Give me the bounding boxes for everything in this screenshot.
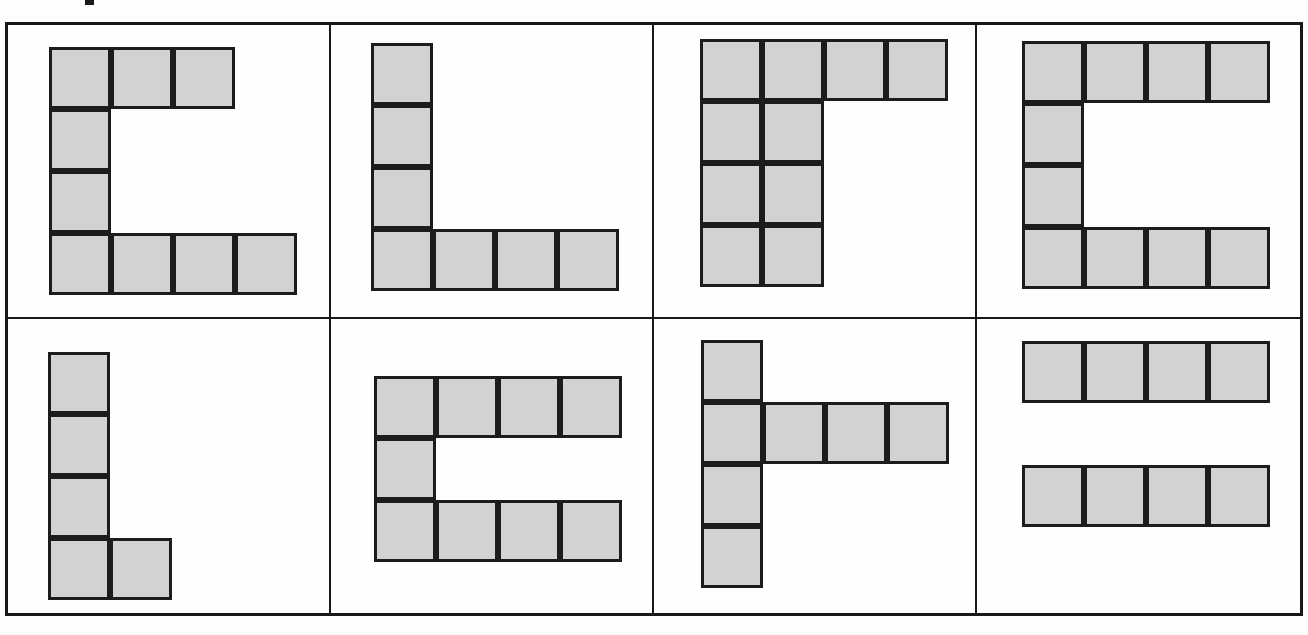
shape-square — [701, 526, 763, 588]
shape-square — [436, 376, 498, 438]
shape-square — [498, 376, 560, 438]
shape-square — [49, 109, 111, 171]
shape-square — [1022, 227, 1084, 289]
panel-8[interactable] — [977, 319, 1300, 613]
panel-3[interactable] — [654, 25, 977, 319]
shape-square — [371, 43, 433, 105]
shape-square — [560, 500, 622, 562]
shape-square — [371, 105, 433, 167]
shape-square — [701, 464, 763, 526]
shape-square — [1146, 341, 1208, 403]
shape-square — [374, 500, 436, 562]
shape-square — [700, 39, 762, 101]
shape-square — [374, 376, 436, 438]
shape-square — [824, 39, 886, 101]
shape-square — [374, 438, 436, 500]
panel-4[interactable] — [977, 25, 1300, 319]
shape-square — [1146, 465, 1208, 527]
shape-square — [49, 171, 111, 233]
shape-square — [701, 340, 763, 402]
shape-C-shape-tall-short-top — [8, 25, 329, 317]
shape-square — [1146, 41, 1208, 103]
shape-square — [48, 476, 110, 538]
shape-two-separate-bars — [977, 319, 1300, 613]
shape-square — [498, 500, 560, 562]
shape-square — [1022, 341, 1084, 403]
shape-grid-table — [5, 22, 1303, 616]
panel-7[interactable] — [654, 319, 977, 613]
shape-square — [48, 414, 110, 476]
shape-square — [700, 163, 762, 225]
shape-square — [173, 233, 235, 295]
shape-L-shape-small-foot — [8, 319, 329, 613]
panel-grid — [8, 25, 1300, 613]
shape-square — [235, 233, 297, 295]
shape-square — [173, 47, 235, 109]
shape-T-rotated-left-stem — [654, 319, 975, 613]
panel-2[interactable] — [331, 25, 654, 319]
shape-square — [436, 500, 498, 562]
shape-square — [1022, 103, 1084, 165]
shape-square — [1022, 465, 1084, 527]
shape-square — [1084, 341, 1146, 403]
panel-5[interactable] — [8, 319, 331, 613]
shape-square — [1146, 227, 1208, 289]
shape-square — [371, 167, 433, 229]
shape-square — [762, 39, 824, 101]
shape-square — [1084, 227, 1146, 289]
shape-square — [1022, 165, 1084, 227]
panel-1[interactable] — [8, 25, 331, 319]
shape-square — [1208, 465, 1270, 527]
shape-square — [110, 538, 172, 600]
shape-square — [763, 402, 825, 464]
shape-square — [111, 47, 173, 109]
shape-square — [560, 376, 622, 438]
shape-square — [557, 229, 619, 291]
shape-square — [1208, 341, 1270, 403]
shape-square — [762, 163, 824, 225]
shape-square — [700, 225, 762, 287]
shape-square — [701, 402, 763, 464]
shape-square — [762, 101, 824, 163]
shape-square — [700, 101, 762, 163]
shape-square — [1084, 41, 1146, 103]
shape-square — [48, 352, 110, 414]
shape-square — [433, 229, 495, 291]
shape-square — [1208, 41, 1270, 103]
shape-square — [495, 229, 557, 291]
shape-square — [825, 402, 887, 464]
shape-square — [762, 225, 824, 287]
shape-square — [1084, 465, 1146, 527]
shape-square — [1208, 227, 1270, 289]
shape-gamma-shape-wide-stem — [654, 25, 975, 317]
shape-square — [1022, 41, 1084, 103]
shape-square — [48, 538, 110, 600]
shape-square — [111, 233, 173, 295]
page-root — [0, 0, 1308, 635]
shape-C-shape-short — [331, 319, 652, 613]
shape-square — [886, 39, 948, 101]
shape-L-shape-tall — [331, 25, 652, 317]
panel-6[interactable] — [331, 319, 654, 613]
shape-square — [887, 402, 949, 464]
shape-square — [49, 233, 111, 295]
shape-square — [49, 47, 111, 109]
top-edge-ink-mark — [85, 0, 94, 5]
shape-C-shape-full — [977, 25, 1300, 317]
shape-square — [371, 229, 433, 291]
